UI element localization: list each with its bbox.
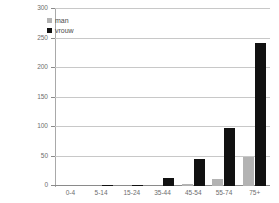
x-tick-label-35-44: 35-44: [147, 190, 178, 202]
legend-item-vrouw: vrouw: [47, 25, 74, 35]
legend-label-vrouw: vrouw: [55, 27, 74, 34]
legend-swatch-vrouw-icon: [47, 28, 52, 33]
bar-group-0-4: [55, 9, 86, 186]
x-tick-label-5-14: 5-14: [86, 190, 117, 202]
x-axis-labels: 0-45-1415-2435-4445-5455-7475+: [55, 190, 270, 202]
bar-group-45-54: [178, 9, 209, 186]
x-tick-label-15-24: 15-24: [116, 190, 147, 202]
y-tick-label-0: 0: [44, 182, 48, 189]
bar-group-35-44: [147, 9, 178, 186]
bar-vrouw-55-74[interactable]: [224, 128, 235, 186]
x-tick-label-45-54: 45-54: [178, 190, 209, 202]
bar-man-45-54[interactable]: [182, 184, 193, 186]
bar-man-55-74[interactable]: [212, 179, 223, 186]
legend-label-man: man: [55, 17, 69, 24]
legend-item-man: man: [47, 15, 74, 25]
bar-chart: 050100150200250300 0-45-1415-2435-4445-5…: [0, 0, 279, 203]
bar-vrouw-45-54[interactable]: [194, 159, 205, 186]
bar-group-55-74: [209, 9, 240, 186]
legend-swatch-man-icon: [47, 18, 52, 23]
x-tick-label-55-74: 55-74: [209, 190, 240, 202]
y-tick-label-200: 200: [37, 64, 48, 71]
x-tick-label-75+: 75+: [239, 190, 270, 202]
x-tick-label-0-4: 0-4: [55, 190, 86, 202]
bar-vrouw-15-24[interactable]: [132, 185, 143, 186]
y-tick-label-100: 100: [37, 123, 48, 130]
chart-legend: man vrouw: [47, 15, 74, 35]
y-tick-label-250: 250: [37, 34, 48, 41]
y-tick-label-150: 150: [37, 93, 48, 100]
y-tick-label-300: 300: [37, 5, 48, 12]
plot-area: 050100150200250300: [55, 9, 270, 186]
bar-vrouw-5-14[interactable]: [102, 185, 113, 186]
y-tick-label-50: 50: [41, 152, 48, 159]
bar-groups: [55, 9, 270, 186]
bar-group-5-14: [86, 9, 117, 186]
bar-group-15-24: [116, 9, 147, 186]
bar-vrouw-35-44[interactable]: [163, 178, 174, 186]
bar-man-75+[interactable]: [243, 157, 254, 186]
bar-vrouw-75+[interactable]: [255, 43, 266, 186]
bar-group-75+: [239, 9, 270, 186]
